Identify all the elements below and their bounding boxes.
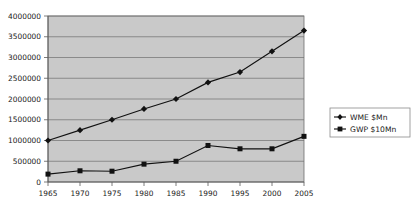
legend: WME $Mn GWP $10Mn — [330, 108, 410, 137]
y-axis-tick-marks — [44, 16, 48, 182]
y-axis-tick-labels: 4000000 3500000 3000000 2500000 2000000 … — [8, 12, 41, 187]
y-tick-label: 1000000 — [8, 136, 41, 145]
y-tick-label: 500000 — [13, 157, 42, 166]
data-point — [206, 143, 211, 148]
y-tick-label: 3500000 — [8, 32, 41, 41]
x-tick-label: 1975 — [103, 189, 122, 198]
x-tick-label: 1995 — [231, 189, 250, 198]
data-point — [174, 159, 179, 164]
x-tick-label: 2000 — [263, 189, 282, 198]
x-tick-label: 1990 — [199, 189, 218, 198]
data-point — [142, 162, 147, 167]
y-tick-label: 3000000 — [8, 53, 41, 62]
data-point — [110, 169, 115, 174]
data-point — [302, 134, 307, 139]
x-tick-label: 1980 — [135, 189, 154, 198]
y-tick-label: 4000000 — [8, 12, 41, 21]
y-tick-label: 2000000 — [8, 95, 41, 104]
data-point — [238, 146, 243, 151]
x-tick-label: 1965 — [39, 189, 58, 198]
y-tick-label: 1500000 — [8, 115, 41, 124]
legend-label-wme: WME $Mn — [350, 113, 388, 122]
x-axis-tick-marks — [48, 182, 304, 186]
chart-container: 4000000 3500000 3000000 2500000 2000000 … — [0, 0, 416, 211]
x-axis-tick-labels: 1965 1970 1975 1980 1985 1990 1995 2000 … — [39, 189, 314, 198]
x-tick-label: 2005 — [295, 189, 314, 198]
data-point — [78, 168, 83, 173]
y-tick-label: 2500000 — [8, 74, 41, 83]
data-point — [46, 172, 51, 177]
legend-label-gwp: GWP $10Mn — [350, 125, 396, 134]
square-icon — [338, 127, 343, 132]
line-chart: 4000000 3500000 3000000 2500000 2000000 … — [0, 0, 416, 211]
y-tick-label: 0 — [36, 178, 41, 187]
data-point — [270, 146, 275, 151]
x-tick-label: 1970 — [71, 189, 90, 198]
x-tick-label: 1985 — [167, 189, 186, 198]
